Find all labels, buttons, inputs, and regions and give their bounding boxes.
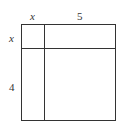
outer-square <box>21 24 116 121</box>
side-label-x: x <box>9 33 14 44</box>
top-label-x: x <box>30 11 35 22</box>
top-label-5: 5 <box>77 11 83 22</box>
horizontal-divider <box>21 48 116 49</box>
side-label-4: 4 <box>9 82 15 93</box>
vertical-divider <box>44 24 45 121</box>
